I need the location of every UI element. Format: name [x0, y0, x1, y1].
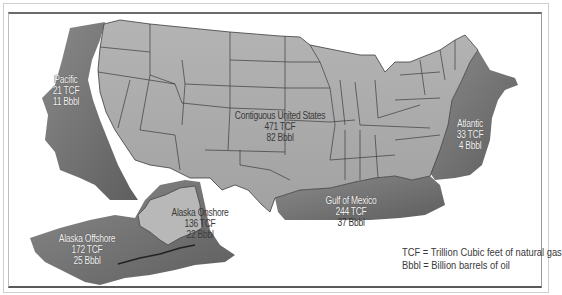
region-name: Contiguous United States: [229, 110, 331, 121]
region-oil: 22 Bbbl: [170, 229, 230, 240]
map-legend: TCF = Trillion Cubic feet of natural gas…: [402, 246, 562, 272]
region-oil: 11 Bbbl: [49, 96, 83, 107]
region-oil: 82 Bbbl: [229, 132, 331, 143]
region-gas: 21 TCF: [49, 85, 83, 96]
region-name: Alaska Offshore: [57, 233, 117, 244]
region-gas: 33 TCF: [453, 129, 487, 140]
region-label-alaska-onshore: Alaska Onshore 136 TCF 22 Bbbl: [170, 207, 230, 240]
region-gas: 172 TCF: [57, 244, 117, 255]
region-name: Pacific: [49, 74, 83, 85]
region-gas: 136 TCF: [170, 218, 230, 229]
region-label-alaska-offshore: Alaska Offshore 172 TCF 25 Bbbl: [57, 233, 117, 266]
region-label-gulf: Gulf of Mexico 244 TCF 37 Bbbl: [321, 195, 381, 228]
legend-tcf: TCF = Trillion Cubic feet of natural gas: [402, 246, 562, 259]
region-oil: 25 Bbbl: [57, 255, 117, 266]
region-name: Gulf of Mexico: [321, 195, 381, 206]
region-gas: 244 TCF: [321, 206, 381, 217]
region-gas: 471 TCF: [229, 121, 331, 132]
region-name: Alaska Onshore: [170, 207, 230, 218]
region-oil: 4 Bbbl: [453, 140, 487, 151]
region-oil: 37 Bbbl: [321, 217, 381, 228]
region-label-contiguous: Contiguous United States 471 TCF 82 Bbbl: [229, 110, 331, 143]
legend-bbbl: Bbbl = Billion barrels of oil: [402, 259, 562, 272]
region-label-atlantic: Atlantic 33 TCF 4 Bbbl: [453, 118, 487, 151]
region-label-pacific: Pacific 21 TCF 11 Bbbl: [49, 74, 83, 107]
region-name: Atlantic: [453, 118, 487, 129]
